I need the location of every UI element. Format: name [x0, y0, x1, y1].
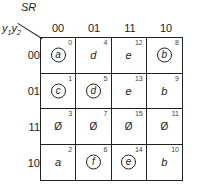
circled-state-value: e [112, 155, 146, 170]
kmap-cell: 8b [147, 38, 182, 74]
cell-index: 13 [135, 75, 143, 82]
state-letter: e [126, 85, 132, 97]
kmap-cell: 10b [147, 145, 182, 181]
state-letter: b [161, 156, 167, 168]
state-letter: f [86, 155, 101, 170]
state-letter: c [51, 83, 66, 98]
cell-index: 8 [175, 39, 179, 46]
karnaugh-map: SR y1y2 00 01 11 10 00 01 11 10 0a4d12e8… [0, 0, 197, 195]
cell-index: 3 [68, 110, 72, 117]
cell-index: 12 [135, 39, 143, 46]
state-value: d [76, 49, 110, 61]
circled-state-value: a [41, 48, 75, 63]
row-variable-label: y1y2 [2, 22, 21, 36]
cell-index: 5 [104, 75, 108, 82]
state-value: Ø [112, 121, 146, 132]
state-letter: Ø [125, 121, 133, 132]
kmap-cell: 3Ø [41, 109, 76, 145]
circled-state-value: c [41, 83, 75, 98]
state-letter: b [161, 85, 167, 97]
state-value: e [112, 49, 146, 61]
kmap-cell: 0a [41, 38, 76, 74]
state-letter: e [126, 49, 132, 61]
column-label: 00 [40, 22, 76, 34]
circled-state-value: d [76, 83, 110, 98]
state-letter: d [86, 83, 101, 98]
state-value: Ø [147, 121, 182, 132]
state-value: a [41, 156, 75, 168]
kmap-cell: 2a [41, 145, 76, 181]
state-letter: d [90, 49, 96, 61]
state-value: b [147, 156, 182, 168]
kmap-cell: 6f [76, 145, 111, 181]
cell-index: 11 [172, 110, 179, 117]
cell-index: 14 [135, 146, 143, 153]
column-label: 01 [76, 22, 112, 34]
cell-index: 10 [171, 146, 179, 153]
column-label: 10 [148, 22, 184, 34]
cell-index: 1 [68, 75, 72, 82]
row-label: 00 [20, 49, 42, 61]
cell-index: 6 [104, 146, 108, 153]
kmap-cell: 15Ø [112, 109, 147, 145]
state-letter: e [121, 155, 136, 170]
kmap-cell: 12e [112, 38, 147, 74]
state-letter: b [157, 48, 172, 63]
kmap-cell: 1c [41, 74, 76, 110]
cell-index: 2 [68, 146, 72, 153]
column-variable-label: SR [21, 1, 36, 13]
cell-index: 0 [68, 39, 72, 46]
column-label: 11 [112, 22, 148, 34]
cell-index: 7 [104, 110, 108, 117]
state-letter: Ø [89, 121, 97, 132]
kmap-grid: 0a4d12e8b1c5d13e9b3Ø7Ø15Ø11Ø2a6f14e10b [40, 37, 183, 181]
cell-index: 4 [104, 39, 108, 46]
row-label: 01 [20, 85, 42, 97]
row-label: 10 [20, 157, 42, 169]
state-value: e [112, 85, 146, 97]
cell-index: 15 [135, 110, 143, 117]
state-letter: a [55, 156, 61, 168]
cell-index: 9 [175, 75, 179, 82]
state-value: Ø [76, 121, 110, 132]
kmap-cell: 13e [112, 74, 147, 110]
state-letter: Ø [160, 121, 168, 132]
kmap-cell: 14e [112, 145, 147, 181]
row-label: 11 [20, 121, 42, 133]
circled-state-value: f [76, 155, 110, 170]
state-value: Ø [41, 121, 75, 132]
kmap-cell: 11Ø [147, 109, 182, 145]
kmap-cell: 7Ø [76, 109, 111, 145]
kmap-cell: 5d [76, 74, 111, 110]
state-letter: a [51, 48, 66, 63]
corner-diagonal [17, 23, 42, 40]
circled-state-value: b [147, 48, 182, 63]
state-value: b [147, 85, 182, 97]
state-letter: Ø [54, 121, 62, 132]
kmap-cell: 4d [76, 38, 111, 74]
kmap-cell: 9b [147, 74, 182, 110]
